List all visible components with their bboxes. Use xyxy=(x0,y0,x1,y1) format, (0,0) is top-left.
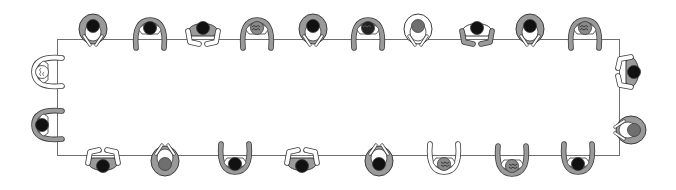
seated-person-left-2 xyxy=(26,105,66,145)
seated-person-top-4 xyxy=(237,12,277,52)
seated-person-bottom-3 xyxy=(215,140,255,180)
seated-person-top-2 xyxy=(130,12,170,52)
person-top-view-icon xyxy=(26,52,66,92)
person-top-view-icon xyxy=(348,12,388,52)
seated-person-top-10 xyxy=(565,12,605,52)
person-top-view-icon xyxy=(610,52,650,92)
person-top-view-icon xyxy=(610,110,650,150)
person-top-view-icon xyxy=(282,142,322,182)
seated-person-left-1 xyxy=(26,52,66,92)
person-top-view-icon xyxy=(398,10,438,50)
seated-person-top-6 xyxy=(348,12,388,52)
person-top-view-icon xyxy=(183,12,223,52)
seated-person-bottom-8 xyxy=(558,140,598,180)
person-top-view-icon xyxy=(26,105,66,145)
person-top-view-icon xyxy=(457,12,497,52)
conference-table-diagram: Top-down view of people seated around a … xyxy=(0,0,676,190)
seated-person-top-3 xyxy=(183,12,223,52)
seated-person-top-8 xyxy=(457,12,497,52)
person-top-view-icon xyxy=(145,140,185,180)
person-top-view-icon xyxy=(510,10,550,50)
seated-person-right-1 xyxy=(610,52,650,92)
person-top-view-icon xyxy=(215,140,255,180)
seated-person-top-1 xyxy=(73,10,113,50)
diagram-title: Top-down view of people seated around a … xyxy=(0,0,1,1)
seated-person-top-5 xyxy=(293,10,333,50)
seated-person-bottom-5 xyxy=(359,140,399,180)
person-top-view-icon xyxy=(237,12,277,52)
seated-person-bottom-2 xyxy=(145,140,185,180)
seated-person-top-9 xyxy=(510,10,550,50)
seated-person-right-2 xyxy=(610,110,650,150)
conference-table xyxy=(57,39,620,156)
seated-person-bottom-1 xyxy=(83,142,123,182)
person-top-view-icon xyxy=(558,140,598,180)
person-top-view-icon xyxy=(492,142,532,182)
person-top-view-icon xyxy=(73,10,113,50)
person-top-view-icon xyxy=(359,140,399,180)
person-top-view-icon xyxy=(293,10,333,50)
person-top-view-icon xyxy=(565,12,605,52)
seated-person-bottom-7 xyxy=(492,142,532,182)
person-top-view-icon xyxy=(424,140,464,180)
seated-person-bottom-4 xyxy=(282,142,322,182)
person-top-view-icon xyxy=(83,142,123,182)
seated-person-bottom-6 xyxy=(424,140,464,180)
person-top-view-icon xyxy=(130,12,170,52)
seated-person-top-7 xyxy=(398,10,438,50)
